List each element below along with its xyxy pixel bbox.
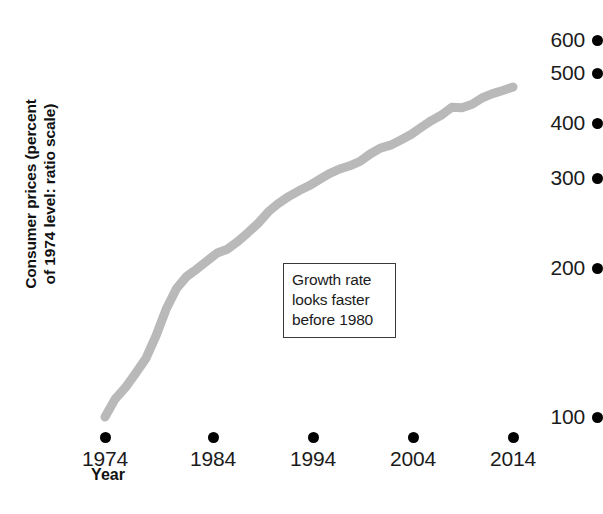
x-axis-tick-dot-icon (308, 432, 319, 443)
x-axis-tick-label: 2014 (468, 448, 558, 470)
x-axis-tick-dot-icon (100, 432, 111, 443)
y-axis-title: Consumer prices (percent of 1974 level: … (21, 34, 59, 354)
y-axis-tick-label: 600 (551, 30, 585, 50)
annotation-callout: Growth rate looks faster before 1980 (283, 263, 396, 338)
y-axis-tick-dot-icon (592, 173, 603, 184)
x-axis-tick-2014: 2014 (468, 432, 558, 470)
y-axis-title-line-2: of 1974 level: ratio scale) (41, 104, 58, 285)
x-axis-tick-label: 1984 (168, 448, 258, 470)
y-axis-tick-400: 400 (485, 113, 603, 133)
y-axis-tick-dot-icon (592, 263, 603, 274)
x-axis-tick-label: 2004 (368, 448, 458, 470)
data-series-consumer-prices (105, 87, 513, 417)
x-axis-tick-1974: 1974 (60, 432, 150, 470)
x-axis-tick-1994: 1994 (268, 432, 358, 470)
x-axis-tick-label: 1994 (268, 448, 358, 470)
x-axis-title: Year (63, 466, 153, 484)
x-axis-tick-2004: 2004 (368, 432, 458, 470)
y-axis-tick-dot-icon (592, 412, 603, 423)
annotation-line-2: looks faster (292, 290, 387, 310)
y-axis-tick-100: 100 (485, 407, 603, 427)
y-axis-tick-dot-icon (592, 118, 603, 129)
x-axis-tick-dot-icon (508, 432, 519, 443)
x-axis-tick-1984: 1984 (168, 432, 258, 470)
y-axis-tick-label: 500 (551, 63, 585, 83)
y-axis-tick-dot-icon (592, 35, 603, 46)
y-axis-title-line-1: Consumer prices (percent (22, 99, 39, 289)
x-axis-tick-dot-icon (408, 432, 419, 443)
y-axis-tick-label: 400 (551, 113, 585, 133)
y-axis-tick-label: 100 (551, 407, 585, 427)
y-axis-tick-200: 200 (485, 258, 603, 278)
y-axis-tick-label: 300 (551, 168, 585, 188)
x-axis-tick-dot-icon (208, 432, 219, 443)
y-axis-tick-label: 200 (551, 258, 585, 278)
chart-container: 600 500 400 300 200 100 Consumer prices … (0, 0, 603, 514)
annotation-line-3: before 1980 (292, 310, 387, 330)
y-axis-tick-300: 300 (485, 168, 603, 188)
y-axis-tick-dot-icon (592, 68, 603, 79)
y-axis-tick-600: 600 (485, 30, 603, 50)
y-axis-tick-500: 500 (485, 63, 603, 83)
annotation-line-1: Growth rate (292, 270, 387, 290)
